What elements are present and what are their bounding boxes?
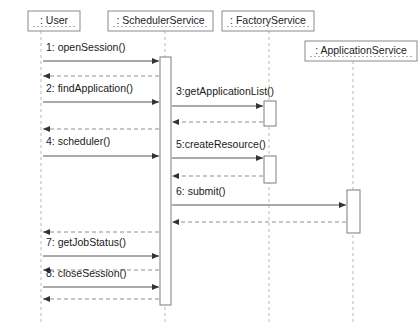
message-label-1: 1: openSession() <box>46 41 125 53</box>
messages-group: 1: openSession()2: findApplication()3:ge… <box>43 41 346 299</box>
participant-label-user: : User <box>40 14 69 26</box>
message-label-6: 6: submit() <box>176 185 226 197</box>
lifelines-group <box>41 31 353 325</box>
act-scheduler-main <box>160 57 171 305</box>
act-factory-2 <box>264 156 276 183</box>
participant-factory_service[interactable]: : FactoryService <box>222 11 314 31</box>
message-label-4: 4: scheduler() <box>46 135 110 147</box>
participant-label-application_service: : ApplicationService <box>315 44 407 56</box>
act-application-1 <box>347 190 360 233</box>
sequence-diagram: 1: openSession()2: findApplication()3:ge… <box>0 0 419 332</box>
participant-user[interactable]: : User <box>28 11 80 31</box>
participant-label-scheduler_service: : SchedulerService <box>116 14 204 26</box>
message-label-5: 5:createResource() <box>176 138 266 150</box>
participant-boxes-group: : User: SchedulerService: FactoryService… <box>28 11 417 61</box>
sequence-diagram-canvas: 1: openSession()2: findApplication()3:ge… <box>0 0 419 332</box>
participant-application_service[interactable]: : ApplicationService <box>305 41 417 61</box>
participant-scheduler_service[interactable]: : SchedulerService <box>108 11 213 31</box>
message-label-3: 3:getApplicationList() <box>176 85 274 97</box>
message-label-8: 8: closeSession() <box>46 267 127 279</box>
act-factory-1 <box>264 101 276 126</box>
message-label-2: 2: findApplication() <box>46 82 133 94</box>
participant-label-factory_service: : FactoryService <box>230 14 306 26</box>
message-label-7: 7: getJobStatus() <box>46 236 126 248</box>
